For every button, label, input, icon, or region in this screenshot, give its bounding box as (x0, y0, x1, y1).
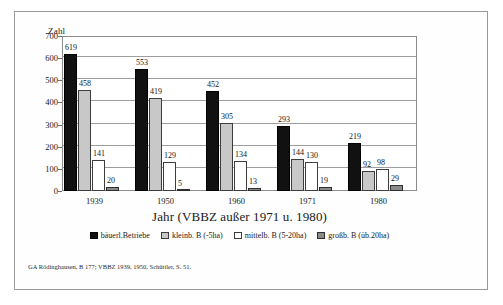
bar[interactable] (92, 160, 105, 191)
bar[interactable] (234, 161, 247, 191)
legend-label: kleinb. B (-5ha) (172, 231, 223, 240)
bar[interactable] (277, 126, 290, 191)
bar[interactable] (390, 185, 403, 191)
legend-item[interactable]: großb. B (üb.20ha) (317, 231, 389, 240)
bar-value-label: 92 (363, 161, 371, 169)
bar[interactable] (64, 54, 77, 191)
legend-item[interactable]: mittelb. B (5-20ha) (234, 231, 307, 240)
bar-value-label: 305 (221, 113, 233, 121)
bar[interactable] (376, 169, 389, 191)
x-axis-tick-label: 1950 (157, 196, 174, 206)
legend-swatch-icon (317, 232, 325, 239)
bar-group: 219929829 (348, 36, 403, 191)
bar-group: 29314413019 (277, 36, 332, 191)
bar-value-label: 5 (178, 180, 182, 188)
legend-item[interactable]: bäuerl.Betriebe (90, 231, 150, 240)
bar-value-label: 129 (164, 152, 176, 160)
y-axis-tick-label: 400 (28, 97, 58, 107)
bar-value-label: 619 (65, 44, 77, 52)
chart-legend: bäuerl.Betriebekleinb. B (-5ha)mittelb. … (62, 231, 417, 240)
bar-group: 61945814120 (64, 36, 119, 191)
bar-group: 45230513413 (206, 36, 261, 191)
bar-value-label: 293 (278, 116, 290, 124)
bar-value-label: 13 (249, 178, 257, 186)
bar[interactable] (220, 123, 233, 191)
bar-value-label: 134 (235, 151, 247, 159)
bar[interactable] (291, 159, 304, 191)
y-axis-ticks: 0100200300400500600700 (24, 36, 58, 191)
bar-series-layer: 6194581412055341912954523051341329314413… (62, 36, 417, 191)
bar-value-label: 419 (150, 88, 162, 96)
y-axis-tick-label: 0 (28, 186, 58, 196)
bar[interactable] (305, 162, 318, 191)
y-axis-tick-label: 100 (28, 164, 58, 174)
bar-value-label: 458 (79, 80, 91, 88)
bar-group: 5534191295 (135, 36, 190, 191)
bar[interactable] (362, 171, 375, 191)
x-axis-tick-label: 1939 (86, 196, 103, 206)
bar-value-label: 98 (377, 159, 385, 167)
bar-value-label: 553 (136, 59, 148, 67)
bar-value-label: 219 (349, 133, 361, 141)
bar[interactable] (149, 98, 162, 191)
legend-label: bäuerl.Betriebe (101, 231, 150, 240)
bar[interactable] (106, 187, 119, 191)
bar-value-label: 130 (306, 152, 318, 160)
bar[interactable] (319, 187, 332, 191)
bar-value-label: 141 (93, 150, 105, 158)
bar-value-label: 144 (292, 149, 304, 157)
y-axis-tick-label: 700 (28, 31, 58, 41)
y-axis-tick-label: 300 (28, 120, 58, 130)
bar-value-label: 19 (320, 177, 328, 185)
x-axis-ticks: 19391950196019711980 (62, 196, 417, 210)
bar-value-label: 20 (107, 177, 115, 185)
bar[interactable] (177, 189, 190, 191)
legend-swatch-icon (234, 232, 242, 239)
legend-label: großb. B (üb.20ha) (328, 231, 389, 240)
legend-swatch-icon (161, 232, 169, 239)
x-axis-tick-label: 1980 (370, 196, 387, 206)
bar[interactable] (248, 188, 261, 191)
bar[interactable] (206, 91, 219, 191)
legend-item[interactable]: kleinb. B (-5ha) (161, 231, 223, 240)
bar-value-label: 452 (207, 81, 219, 89)
y-axis-tick-label: 200 (28, 142, 58, 152)
y-axis-tick-label: 500 (28, 75, 58, 85)
bar[interactable] (78, 90, 91, 191)
bar-value-label: 29 (391, 175, 399, 183)
x-axis-tick-label: 1960 (228, 196, 245, 206)
source-note: GA Rödinghausen, B 177; VBBZ 1939, 1950,… (28, 262, 288, 272)
bar-chart: Zahl 0100200300400500600700 619458141205… (0, 0, 503, 305)
y-axis-tick-mark (58, 191, 62, 192)
legend-label: mittelb. B (5-20ha) (245, 231, 307, 240)
x-axis-title: Jahr (VBBZ außer 1971 u. 1980) (62, 209, 417, 225)
bar[interactable] (135, 69, 148, 191)
bar[interactable] (163, 162, 176, 191)
legend-swatch-icon (90, 232, 98, 239)
y-axis-tick-label: 600 (28, 53, 58, 63)
bar[interactable] (348, 143, 361, 191)
x-axis-tick-label: 1971 (299, 196, 316, 206)
